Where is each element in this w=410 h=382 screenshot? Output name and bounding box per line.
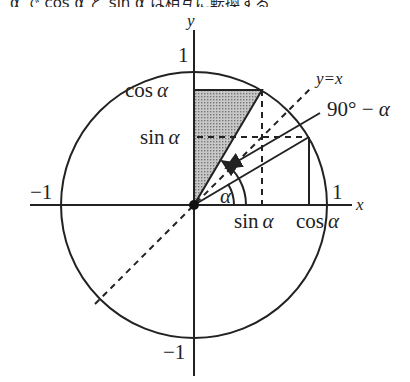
label-alpha-angle: α [220,184,232,208]
label-cos-y: cosα [125,78,169,102]
unit-circle-diagram: y x 1 1 −1 −1 cosα sinα sinα cosα α y=x … [0,0,410,382]
tick-neg-x: −1 [30,180,52,204]
label-cos-x: cosα [296,209,340,233]
tick-neg-y: −1 [163,340,185,364]
label-y-equals-x: y=x [314,69,343,88]
y-axis-label: y [185,11,195,30]
x-axis-label: x [355,195,364,214]
label-sin-y: sinα [140,125,181,149]
tick-pos-y: 1 [178,43,189,67]
origin-point [189,200,199,210]
label-complement-angle: 90° − α [327,97,391,121]
label-sin-x: sinα [234,209,275,233]
tick-pos-x: 1 [332,180,343,204]
